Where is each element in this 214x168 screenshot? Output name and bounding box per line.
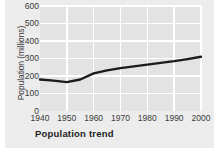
x-tick-label: 1960 — [79, 113, 109, 123]
y-tick-label: 400 — [13, 37, 39, 45]
x-tick-label: 1940 — [25, 113, 55, 123]
x-tick-label: 1980 — [132, 113, 162, 123]
chart-title: Population trend — [35, 128, 114, 139]
x-axis-tick-labels: 1940195019601970198019902000 — [5, 113, 214, 125]
y-tick-label: 100 — [13, 89, 39, 97]
population-trend-chart: Population (millions) 010020030040050060… — [5, 0, 214, 148]
x-tick-label: 1970 — [106, 113, 136, 123]
y-axis-tick-labels: 0100200300400500600 — [11, 0, 39, 148]
x-tick-label: 1990 — [159, 113, 189, 123]
y-tick-label: 500 — [13, 19, 39, 27]
y-tick-label: 600 — [13, 2, 39, 10]
chart-screenshot: Population (millions) 010020030040050060… — [0, 0, 214, 168]
x-tick-label: 1950 — [52, 113, 82, 123]
plot-area — [40, 6, 202, 111]
x-tick-label: 2000 — [186, 113, 214, 123]
population-line-series — [40, 6, 201, 111]
y-tick-label: 200 — [13, 72, 39, 80]
y-tick-label: 300 — [13, 54, 39, 62]
